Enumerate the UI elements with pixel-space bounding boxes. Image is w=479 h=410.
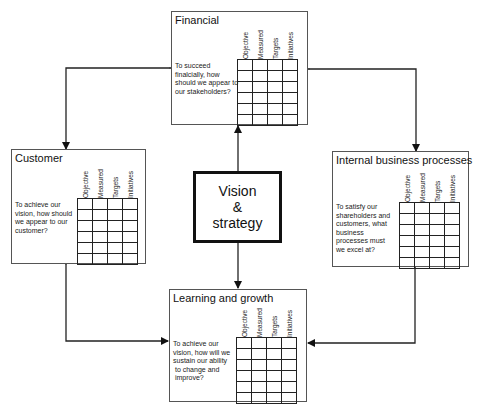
perspective-question: To succeed finalcially, how should we ap… (175, 62, 238, 96)
grid-cell (268, 93, 283, 104)
grid-cell (108, 221, 123, 232)
column-headers: Objective Measured Targets Initiatives (77, 158, 138, 198)
arrow-financial-internal (309, 69, 416, 151)
grid-cell (108, 232, 123, 243)
scorecard-grid (236, 337, 297, 404)
grid-cell (238, 82, 253, 93)
grid-cell (93, 254, 108, 265)
grid-cell (237, 382, 252, 393)
grid-cell (237, 338, 252, 349)
grid-cell (78, 221, 93, 232)
col-targets: Targets (271, 316, 278, 337)
grid-cell (282, 382, 297, 393)
grid-cell (400, 225, 415, 236)
learning-and-growth-perspective: Learning and growth Objective Measured T… (169, 289, 307, 402)
grid-cell (430, 203, 445, 214)
grid-cell (282, 349, 297, 360)
grid-cell (238, 60, 253, 71)
grid-cell (252, 338, 267, 349)
vision-and-strategy-box: Vision & strategy (193, 171, 282, 243)
grid-cell (430, 214, 445, 225)
grid-cell (93, 243, 108, 254)
grid-cell (78, 243, 93, 254)
grid-cell (282, 371, 297, 382)
grid-cell (253, 104, 268, 115)
internal-business-processes-perspective: Internal business processes Objective Me… (332, 151, 469, 267)
grid-cell (267, 382, 282, 393)
grid-cell (93, 221, 108, 232)
grid-cell (268, 115, 283, 126)
grid-cell (267, 371, 282, 382)
grid-cell (445, 258, 460, 269)
arrow-internal-learning (308, 267, 415, 343)
perspective-question: To satisfy our shareholders and customer… (336, 203, 390, 255)
grid-cell (253, 82, 268, 93)
perspective-question: To achieve our vision, how should we app… (15, 201, 72, 235)
strategy-label: strategy (213, 215, 263, 231)
col-initiatives: Initiatives (449, 175, 456, 202)
grid-cell (252, 382, 267, 393)
grid-cell (123, 199, 138, 210)
grid-cell (93, 199, 108, 210)
grid-cell (268, 82, 283, 93)
grid-cell (282, 393, 297, 404)
col-measured: Measured (256, 308, 263, 337)
col-objective: Objective (404, 175, 411, 202)
grid-cell (283, 104, 298, 115)
arrow-financial-customer (66, 68, 170, 149)
financial-perspective: Financial Objective Measured Targets Ini… (171, 11, 308, 125)
grid-cell (78, 232, 93, 243)
grid-cell (445, 225, 460, 236)
grid-cell (78, 254, 93, 265)
grid-cell (267, 360, 282, 371)
column-headers: Objective Measured Targets Initiatives (237, 19, 298, 59)
grid-cell (123, 254, 138, 265)
grid-cell (400, 203, 415, 214)
grid-cell (445, 203, 460, 214)
grid-cell (252, 393, 267, 404)
grid-cell (430, 236, 445, 247)
grid-cell (253, 71, 268, 82)
grid-cell (400, 236, 415, 247)
grid-cell (78, 199, 93, 210)
grid-cell (430, 247, 445, 258)
grid-cell (267, 349, 282, 360)
grid-cell (93, 232, 108, 243)
grid-cell (415, 203, 430, 214)
grid-cell (268, 60, 283, 71)
grid-cell (283, 82, 298, 93)
col-targets: Targets (434, 181, 441, 202)
col-objective: Objective (241, 310, 248, 337)
grid-cell (237, 393, 252, 404)
col-initiatives: Initiatives (127, 171, 134, 198)
grid-cell (415, 214, 430, 225)
grid-cell (282, 360, 297, 371)
grid-cell (267, 393, 282, 404)
grid-cell (445, 236, 460, 247)
grid-cell (108, 199, 123, 210)
grid-cell (400, 214, 415, 225)
col-initiatives: Initiatives (286, 310, 293, 337)
grid-cell (252, 371, 267, 382)
scorecard-grid (399, 202, 460, 269)
col-objective: Objective (242, 32, 249, 59)
grid-cell (267, 338, 282, 349)
grid-cell (93, 210, 108, 221)
grid-cell (445, 214, 460, 225)
grid-cell (123, 210, 138, 221)
scorecard-grid (77, 198, 138, 265)
ampersand-label: & (233, 199, 242, 215)
col-initiatives: Initiatives (287, 32, 294, 59)
grid-cell (400, 247, 415, 258)
grid-cell (238, 104, 253, 115)
column-headers: Objective Measured Targets Initiatives (236, 297, 297, 337)
grid-cell (253, 93, 268, 104)
grid-cell (252, 349, 267, 360)
col-measured: Measured (419, 173, 426, 202)
grid-cell (268, 71, 283, 82)
col-targets: Targets (112, 177, 119, 198)
grid-cell (253, 60, 268, 71)
perspective-title: Customer (15, 152, 63, 164)
grid-cell (283, 60, 298, 71)
grid-cell (445, 247, 460, 258)
